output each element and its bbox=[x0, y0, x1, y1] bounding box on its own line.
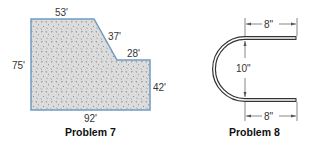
problem8-caption: Problem 8 bbox=[229, 126, 280, 138]
problem8-figure: 8" 10" 8" Problem 8 bbox=[214, 18, 297, 138]
dim-bottom-arm: 8" bbox=[264, 111, 274, 122]
lot-shape bbox=[31, 19, 150, 110]
dim-bottom: 92' bbox=[84, 113, 97, 124]
problem7-figure: 53' 37' 28' 75' 42' 92' Problem 7 bbox=[12, 7, 166, 138]
arrow-down-icon bbox=[244, 92, 247, 97]
u-rod-inner bbox=[214, 38, 296, 100]
arrow-right-icon bbox=[291, 115, 296, 118]
dim-left: 75' bbox=[12, 60, 25, 71]
dim-top-arm: 8" bbox=[264, 19, 274, 30]
dim-top: 53' bbox=[55, 7, 68, 18]
dim-step: 28' bbox=[127, 48, 140, 59]
problem7-caption: Problem 7 bbox=[65, 126, 116, 138]
u-rod-outer bbox=[214, 38, 296, 100]
dim-right: 42' bbox=[153, 82, 166, 93]
figure-canvas: 53' 37' 28' 75' 42' 92' Problem 7 8" 10" bbox=[0, 0, 317, 148]
dim-diagonal: 37' bbox=[108, 31, 121, 42]
arrow-left-icon bbox=[246, 115, 251, 118]
dim-gap: 10" bbox=[236, 63, 251, 74]
arrow-left-icon bbox=[246, 23, 251, 26]
arrow-right-icon bbox=[291, 23, 296, 26]
arrow-up-icon bbox=[244, 41, 247, 46]
